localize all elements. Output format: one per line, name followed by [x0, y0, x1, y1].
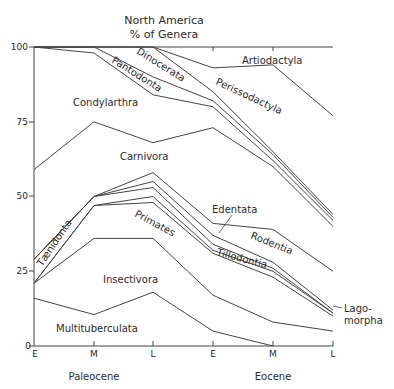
label-multituberculata: Multituberculata — [56, 323, 138, 334]
y-tick-75: 75 — [17, 117, 28, 127]
boundary-carnivora — [34, 122, 333, 227]
lagomorpha-leader — [333, 306, 342, 308]
chart-svg: North America % of Genera 100 75 50 25 0… — [0, 0, 394, 389]
y-tick-labels: 100 75 50 25 0 — [11, 42, 31, 351]
label-taeniodonta: Tænidonta — [34, 217, 74, 269]
label-tillodontia: Tillodontia — [215, 246, 269, 270]
y-tick-100: 100 — [11, 42, 28, 52]
chart-title: North America — [124, 14, 204, 27]
y-tick-0: 0 — [25, 341, 31, 351]
label-artiodactyla: Artiodactyla — [242, 55, 303, 66]
label-insectivora: Insectivora — [103, 274, 158, 285]
label-lagomorpha-2: morpha — [344, 315, 383, 326]
label-edentata: Edentata — [212, 204, 257, 215]
x-tick-eocene-l: L — [330, 349, 335, 359]
label-condylarthra: Condylarthra — [73, 97, 138, 108]
label-perissodactyla: Perissodactyla — [214, 76, 284, 116]
label-lagomorpha-1: Lago- — [344, 303, 372, 314]
x-tick-paleocene-l: L — [150, 349, 155, 359]
chart-container: North America % of Genera 100 75 50 25 0… — [0, 0, 394, 389]
label-carnivora: Carnivora — [120, 151, 168, 162]
boundary-lines — [34, 47, 333, 346]
x-tick-labels: E M L E M L — [32, 349, 335, 359]
chart-subtitle: % of Genera — [130, 28, 198, 41]
x-tick-eocene-m: M — [269, 349, 277, 359]
epoch-label-eocene: Eocene — [255, 371, 292, 382]
boundary-multituberculata — [34, 292, 273, 346]
y-tick-50: 50 — [17, 191, 29, 201]
x-tick-eocene-e: E — [210, 349, 216, 359]
x-tick-paleocene-m: M — [90, 349, 98, 359]
x-tick-paleocene-e: E — [32, 349, 38, 359]
label-rodentia: Rodentia — [249, 230, 294, 257]
y-tick-25: 25 — [17, 266, 28, 276]
epoch-label-paleocene: Paleocene — [69, 371, 120, 382]
boundary-edentata — [34, 173, 333, 272]
boundary-primates — [34, 203, 333, 317]
